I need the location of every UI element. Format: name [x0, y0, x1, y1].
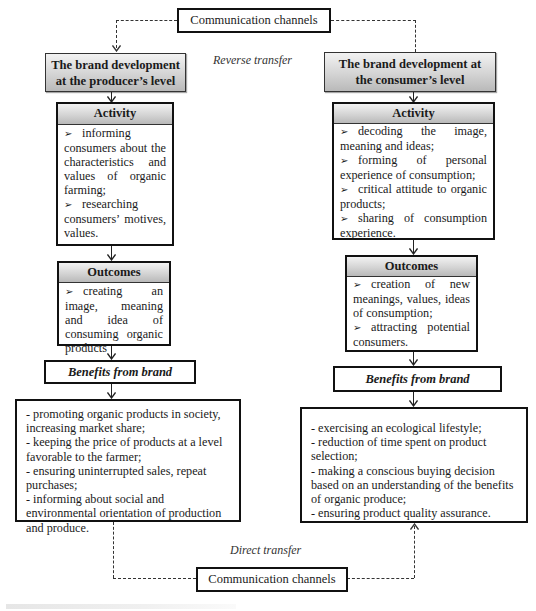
- reverse-transfer-label: Reverse transfer: [213, 53, 292, 68]
- consumer-title-line-2: the consumer’s level: [339, 72, 481, 88]
- direct-transfer-label: Direct transfer: [230, 543, 301, 558]
- consumer-outcomes-list: ➢creation of new meanings, values, ideas…: [347, 277, 476, 351]
- list-item: ➢forming of personal experience of consu…: [340, 153, 487, 182]
- arrow-up-icon: [410, 523, 419, 530]
- producer-outcomes-list: ➢creating an image, meaning and idea of …: [59, 283, 169, 357]
- producer-benefits-heading: Benefits from brand: [68, 365, 172, 380]
- producer-title-line-1: The brand development: [51, 57, 180, 73]
- bottom-left-dashed-connector: [113, 578, 196, 579]
- producer-benefits-heading-box: Benefits from brand: [44, 360, 196, 384]
- list-item: ➢creation of new meanings, values, ideas…: [353, 277, 470, 320]
- top-right-dashed-connector: [331, 20, 416, 21]
- arrow-down-icon: [112, 45, 121, 52]
- producer-title-box: The brand development at the producer’s …: [45, 53, 186, 92]
- list-item: - promoting organic products in society,…: [26, 407, 231, 435]
- bullet-arrow-icon: ➢: [340, 155, 348, 166]
- bullet-arrow-icon: ➢: [353, 322, 361, 333]
- cropped-caption-strip: [6, 604, 236, 609]
- arrow-down-icon: [107, 353, 116, 360]
- bottom-communication-channels-label: Communication channels: [208, 572, 335, 587]
- top-left-dashed-connector: [116, 20, 177, 21]
- list-item: - reduction of time spent on product sel…: [311, 435, 518, 463]
- arrow-down-icon: [409, 359, 418, 366]
- consumer-outcomes-heading: Outcomes: [347, 257, 476, 277]
- arrow-down-icon: [107, 392, 116, 399]
- consumer-activity-heading: Activity: [334, 104, 493, 124]
- list-item: - making a conscious buying decision bas…: [311, 464, 518, 507]
- top-right-dashed-drop: [415, 20, 416, 52]
- consumer-benefits-heading: Benefits from brand: [365, 372, 469, 387]
- bullet-arrow-icon: ➢: [353, 279, 361, 290]
- list-item: ➢creating an image, meaning and idea of …: [65, 284, 163, 355]
- consumer-outcomes-card: Outcomes ➢creation of new meanings, valu…: [345, 255, 478, 352]
- list-item: - informing about social and environment…: [26, 492, 231, 535]
- bullet-arrow-icon: ➢: [64, 128, 72, 139]
- producer-benefits-list-box: - promoting organic products in society,…: [15, 399, 241, 522]
- bottom-left-dashed-drop: [113, 522, 114, 578]
- list-item: - keeping the price of products at a lev…: [26, 435, 231, 463]
- arrow-down-icon: [409, 400, 418, 407]
- list-item: - ensuring uninterrupted sales, repeat p…: [26, 464, 231, 492]
- list-item: ➢researching consumers’ motives, values.: [64, 197, 166, 240]
- list-item: ➢informing consumers about the character…: [64, 126, 166, 197]
- list-item: ➢sharing of consumption experience.: [340, 211, 487, 240]
- bottom-right-dashed-rise: [414, 526, 415, 578]
- bullet-arrow-icon: ➢: [340, 213, 348, 224]
- list-item: ➢attracting potential consumers.: [353, 320, 470, 349]
- list-item: ➢decoding the image, meaning and ideas;: [340, 124, 487, 153]
- bottom-communication-channels-box: Communication channels: [196, 567, 348, 592]
- consumer-title-box: The brand development at the consumer’s …: [324, 52, 496, 92]
- bullet-arrow-icon: ➢: [65, 286, 73, 297]
- bottom-right-dashed-connector: [347, 578, 414, 579]
- producer-activity-list: ➢informing consumers about the character…: [58, 125, 172, 242]
- producer-title-line-2: at the producer’s level: [51, 73, 180, 89]
- bullet-arrow-icon: ➢: [340, 184, 348, 195]
- list-item: ➢critical attitude to organic products;: [340, 182, 487, 211]
- top-communication-channels-box: Communication channels: [177, 8, 331, 33]
- list-item: - exercising an ecological lifestyle;: [311, 421, 518, 435]
- producer-outcomes-card: Outcomes ➢creating an image, meaning and…: [57, 261, 171, 346]
- producer-outcomes-heading: Outcomes: [59, 263, 169, 283]
- consumer-activity-card: Activity ➢decoding the image, meaning an…: [332, 102, 495, 240]
- arrow-down-icon: [409, 248, 418, 255]
- consumer-activity-list: ➢decoding the image, meaning and ideas; …: [334, 124, 493, 242]
- producer-activity-card: Activity ➢informing consumers about the …: [56, 102, 174, 246]
- consumer-benefits-list-box: - exercising an ecological lifestyle; - …: [300, 407, 528, 523]
- bullet-arrow-icon: ➢: [340, 126, 348, 137]
- top-communication-channels-label: Communication channels: [190, 13, 317, 28]
- list-item: - ensuring product quality assurance.: [311, 506, 518, 520]
- consumer-title-line-1: The brand development at: [339, 56, 481, 72]
- bullet-arrow-icon: ➢: [64, 199, 72, 210]
- arrow-down-icon: [107, 254, 116, 261]
- consumer-benefits-heading-box: Benefits from brand: [333, 366, 502, 392]
- top-left-dashed-drop: [116, 20, 117, 48]
- producer-activity-heading: Activity: [58, 104, 172, 125]
